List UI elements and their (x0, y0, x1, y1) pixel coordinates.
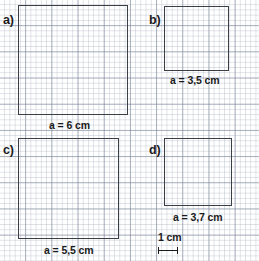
panel-letter-d: d) (149, 144, 160, 157)
side-length-label-d: a = 3,7 cm (173, 212, 223, 223)
square-shape-d (164, 138, 232, 206)
panel-letter-c: c) (3, 144, 14, 157)
square-shape-a (18, 5, 128, 115)
side-length-label-c: a = 5,5 cm (44, 245, 94, 256)
scale-bar-tick-left (158, 247, 159, 254)
scale-bar-tick-right (177, 247, 178, 254)
worksheet-sheet: a) a = 6 cm b) a = 3,5 cm c) a = 5,5 cm … (0, 0, 259, 261)
panel-letter-b: b) (149, 14, 160, 27)
square-shape-c (18, 138, 119, 239)
scale-bar: 1 cm (156, 232, 196, 256)
scale-bar-label: 1 cm (158, 232, 182, 243)
scale-bar-ruler-icon (158, 247, 178, 254)
scale-bar-line (158, 250, 178, 251)
square-shape-b (164, 6, 229, 71)
side-length-label-b: a = 3,5 cm (170, 75, 220, 86)
panel-letter-a: a) (3, 14, 14, 27)
side-length-label-a: a = 6 cm (49, 120, 90, 131)
